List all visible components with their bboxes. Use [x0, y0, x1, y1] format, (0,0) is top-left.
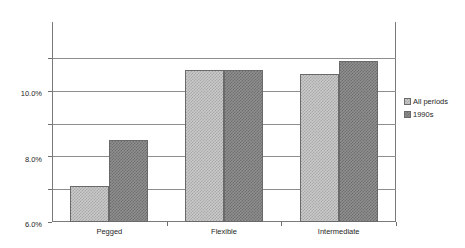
legend-label-1990s: 1990s [413, 111, 433, 119]
x-axis-label-flexible: Flexible [211, 228, 237, 236]
bar-pegged-1990s [109, 140, 148, 222]
bar-flexible-all-periods [185, 70, 224, 222]
legend-item-1990s: 1990s [404, 111, 448, 119]
bar-intermediate-1990s [339, 61, 378, 222]
y-tick-mark: 2.0% [48, 189, 52, 190]
y-tick-mark: 8.0% [48, 91, 52, 92]
y-tick-mark: 0.0% [48, 222, 52, 223]
y-tick-label: 6.0% [25, 222, 42, 230]
y-axis-line [52, 22, 53, 222]
x-tick-mark [396, 222, 397, 226]
bar-intermediate-all-periods [300, 74, 339, 222]
legend-label-all-periods: All periods [413, 98, 448, 106]
legend-item-all-periods: All periods [404, 98, 448, 106]
plot-area: 0.0%2.0%4.0%6.0%8.0%10.0% [52, 22, 396, 222]
x-tick-mark [167, 222, 168, 226]
y-tick-mark: 6.0% [48, 124, 52, 125]
x-axis-label-pegged: Pegged [96, 228, 122, 236]
y-tick-label: 8.0% [25, 156, 42, 164]
x-tick-mark [281, 222, 282, 226]
plot-right-border [395, 22, 396, 222]
legend-swatch-icon-1990s [404, 111, 411, 118]
bar-flexible-1990s [224, 70, 263, 222]
bar-pegged-all-periods [70, 186, 109, 222]
y-tick-mark: 4.0% [48, 156, 52, 157]
gridline [53, 58, 396, 59]
y-tick-label: 10.0% [21, 90, 42, 98]
legend: All periods 1990s [404, 98, 448, 123]
x-axis-label-intermediate: Intermediate [318, 228, 360, 236]
legend-swatch-icon-all-periods [404, 98, 411, 105]
bar-chart: 0.0%2.0%4.0%6.0%8.0%10.0% PeggedFlexible… [0, 0, 465, 248]
y-tick-mark: 10.0% [48, 58, 52, 59]
